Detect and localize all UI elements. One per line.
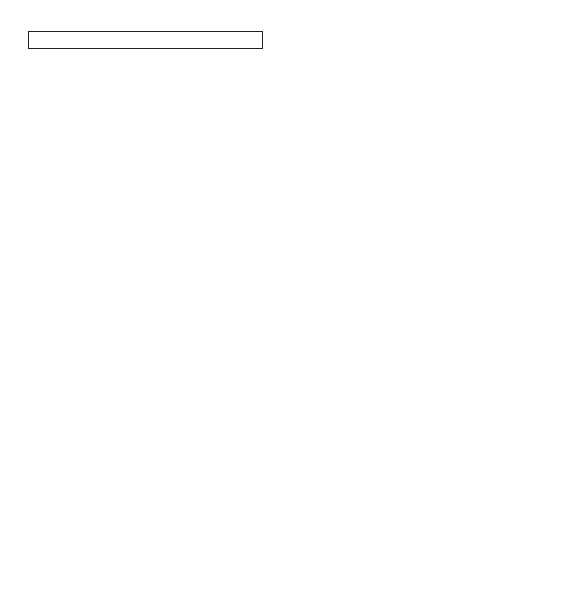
adjacency-matrix bbox=[0, 0, 569, 616]
